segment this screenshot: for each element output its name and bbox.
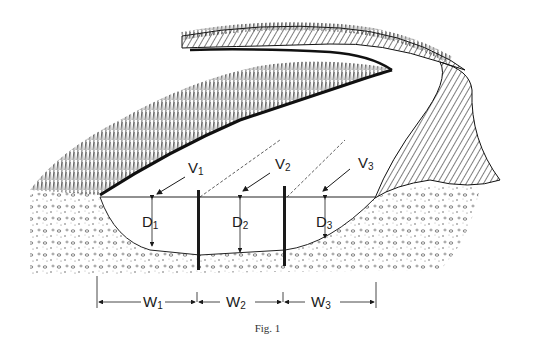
measuring-rod-1 <box>197 190 200 270</box>
figure-caption: Fig. 1 <box>0 322 535 334</box>
velocity-label-3: V3 <box>358 155 374 172</box>
flow-dividers <box>200 140 345 197</box>
left-bank-vegetation <box>30 49 392 195</box>
depth-label-3: D3 <box>316 214 332 231</box>
measuring-rod-2 <box>283 186 286 266</box>
width-label-2: W2 <box>226 294 246 311</box>
streambed-gravel <box>30 186 480 275</box>
depth-label-1: D1 <box>142 214 158 231</box>
right-bank-vegetation <box>375 62 500 198</box>
velocity-label-2: V2 <box>275 156 291 173</box>
velocity-arrows <box>157 169 350 194</box>
stream-cross-section-diagram <box>0 0 535 345</box>
velocity-label-1: V1 <box>188 160 204 177</box>
width-label-3: W3 <box>311 294 331 311</box>
width-label-1: W1 <box>143 294 163 311</box>
depth-label-2: D2 <box>232 214 248 231</box>
